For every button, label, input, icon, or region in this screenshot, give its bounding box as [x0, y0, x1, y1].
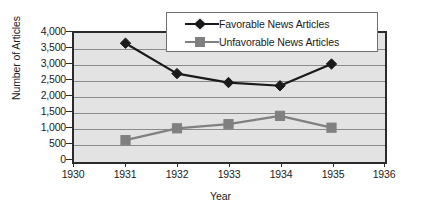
- y-axis-labels: 4,000 3,500 3,000 2,500 2,000 1,500 1,00…: [26, 24, 66, 168]
- x-axis-tick: [384, 162, 385, 167]
- y-axis-label: 3,500: [26, 42, 66, 53]
- x-axis-label: 1934: [258, 168, 304, 180]
- legend: Favorable News Articles Unfavorable News…: [166, 12, 378, 52]
- x-axis-label: 1931: [102, 168, 148, 180]
- diamond-marker-icon: [185, 17, 219, 31]
- x-axis-label: 1936: [361, 168, 407, 180]
- y-axis-label: 1,500: [26, 106, 66, 117]
- y-axis-label: 4,000: [26, 26, 66, 37]
- gridline: [74, 81, 385, 82]
- gridline: [74, 97, 385, 98]
- y-axis-tick: [66, 31, 72, 32]
- x-axis-tick: [177, 162, 178, 167]
- gridline: [74, 145, 385, 146]
- x-axis-tick: [125, 162, 126, 167]
- gridline: [74, 65, 385, 66]
- x-axis-label: 1933: [206, 168, 252, 180]
- gridline: [74, 129, 385, 130]
- legend-label: Unfavorable News Articles: [219, 36, 339, 48]
- square-marker-icon: [185, 35, 219, 49]
- y-axis-tick: [66, 111, 72, 112]
- x-axis-tick: [281, 162, 282, 167]
- y-axis-tick: [66, 159, 72, 160]
- y-axis-tick: [66, 127, 72, 128]
- legend-item-favorable: Favorable News Articles: [167, 15, 377, 33]
- y-axis-tick: [66, 47, 72, 48]
- y-axis-label: 2,000: [26, 90, 66, 101]
- x-axis-label: 1932: [154, 168, 200, 180]
- y-axis-label: 500: [26, 138, 66, 149]
- y-axis-label: 2,500: [26, 74, 66, 85]
- y-axis-label: 3,000: [26, 58, 66, 69]
- line-chart: Number of Articles 4,000 3,500 3,000 2,5…: [0, 0, 441, 211]
- y-axis-tick: [66, 63, 72, 64]
- y-axis-label: 1,000: [26, 122, 66, 133]
- legend-label: Favorable News Articles: [219, 18, 329, 30]
- x-axis-title: Year: [0, 190, 441, 202]
- x-axis-tick: [73, 162, 74, 167]
- y-axis-tick: [66, 143, 72, 144]
- x-axis-label: 1935: [310, 168, 356, 180]
- x-axis-tick: [333, 162, 334, 167]
- y-axis-tick: [66, 95, 72, 96]
- y-axis-tick: [66, 79, 72, 80]
- gridline: [74, 113, 385, 114]
- y-axis-label: 0: [26, 154, 66, 165]
- x-axis-label: 1930: [50, 168, 96, 180]
- y-axis-title: Number of Articles: [10, 0, 22, 118]
- legend-item-unfavorable: Unfavorable News Articles: [167, 33, 377, 51]
- x-axis-tick: [229, 162, 230, 167]
